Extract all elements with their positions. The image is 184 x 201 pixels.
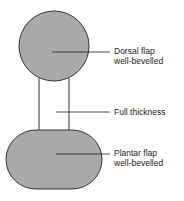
dorsal-label-line1: Dorsal flap — [114, 46, 163, 56]
dorsal-label: Dorsal flap well-bevelled — [114, 46, 163, 66]
full-thickness-label: Full thickness — [114, 107, 166, 117]
plantar-label: Plantar flap well-bevelled — [114, 148, 163, 168]
plantar-flap-shape — [6, 130, 102, 189]
dorsal-label-line2: well-bevelled — [114, 56, 163, 66]
plantar-label-line1: Plantar flap — [114, 148, 163, 158]
flap-diagram — [0, 0, 184, 201]
plantar-label-line2: well-bevelled — [114, 158, 163, 168]
dorsal-flap-shape — [19, 11, 89, 81]
